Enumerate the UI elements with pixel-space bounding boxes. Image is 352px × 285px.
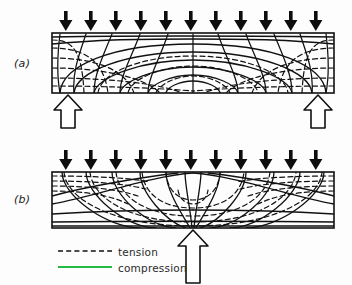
arrow-down-icon bbox=[234, 11, 247, 31]
legend-label-compression: compression bbox=[118, 262, 187, 274]
stress-trajectory-figure: (a) (b) tension compression bbox=[0, 0, 352, 285]
arrow-up-outline-icon bbox=[178, 230, 208, 283]
arrow-down-icon bbox=[259, 150, 272, 170]
panel-label-a: (a) bbox=[14, 57, 30, 70]
supports-panel-a bbox=[54, 95, 332, 128]
arrow-up-outline-icon bbox=[304, 95, 332, 128]
arrow-down-icon bbox=[59, 11, 72, 31]
compression-trajectories-a-oblique bbox=[58, 34, 329, 93]
load-arrows-panel-a bbox=[59, 11, 322, 31]
arrow-down-icon bbox=[259, 11, 272, 31]
arrow-down-icon bbox=[309, 150, 322, 170]
arrow-up-outline-icon bbox=[54, 95, 82, 128]
load-arrows-panel-b bbox=[59, 150, 322, 170]
supports-panel-b bbox=[178, 230, 208, 283]
arrow-down-icon bbox=[184, 150, 197, 170]
figure-canvas bbox=[0, 0, 352, 285]
arrow-down-icon bbox=[109, 11, 122, 31]
arrow-down-icon bbox=[84, 150, 97, 170]
arrow-down-icon bbox=[84, 11, 97, 31]
arrow-down-icon bbox=[159, 11, 172, 31]
stress-trajectories-panel-a bbox=[52, 34, 334, 93]
arrow-down-icon bbox=[134, 11, 147, 31]
tension-trajectories-b bbox=[52, 172, 334, 226]
arrow-down-icon bbox=[209, 150, 222, 170]
arrow-down-icon bbox=[284, 11, 297, 31]
legend bbox=[58, 251, 112, 267]
arrow-down-icon bbox=[59, 150, 72, 170]
arrow-down-icon bbox=[209, 11, 222, 31]
arrow-down-icon bbox=[309, 11, 322, 31]
arrow-down-icon bbox=[234, 150, 247, 170]
arrow-down-icon bbox=[184, 11, 197, 31]
stress-trajectories-panel-b bbox=[52, 172, 334, 228]
arrow-down-icon bbox=[109, 150, 122, 170]
panel-label-b: (b) bbox=[14, 193, 30, 206]
arrow-down-icon bbox=[284, 150, 297, 170]
arrow-down-icon bbox=[159, 150, 172, 170]
legend-label-tension: tension bbox=[118, 246, 158, 258]
arrow-down-icon bbox=[134, 150, 147, 170]
